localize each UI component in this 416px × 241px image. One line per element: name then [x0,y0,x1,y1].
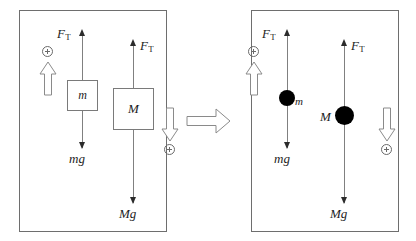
tension-symbol: F [57,26,65,41]
large-block-weight-arrowhead [130,197,136,204]
positive-up-block-arrow-icon [245,61,263,96]
small-point-mass-label: m [295,96,303,107]
small-block-tension-arrowhead [79,29,85,36]
small-point-mass-body [279,90,295,106]
tension-symbol: F [140,38,148,53]
small-block-weight-arrowhead [79,142,85,149]
large-point-weight-label: Mg [330,207,347,220]
small-block-tension-label: FT [57,27,71,42]
figure-canvas: FT m mg FT M Mg [0,0,416,241]
small-point-tension-arrowhead [284,29,290,36]
tension-subscript: T [359,44,364,54]
large-point-tension-arrowhead [341,39,347,46]
large-point-mass-label: M [320,110,331,123]
tension-symbol: F [262,26,270,41]
positive-up-sign-icon [248,46,259,57]
positive-up-block-arrow-icon [39,61,57,96]
positive-down-block-arrow-icon [378,107,396,142]
large-block-tension-label: FT [140,39,154,54]
tension-subscript: T [148,44,153,54]
large-block-body: M [113,88,154,130]
implies-arrow-icon [186,107,231,135]
tension-symbol: F [351,38,359,53]
before-panel: FT m mg FT M Mg [19,10,167,232]
small-point-tension-label: FT [262,27,276,42]
tension-subscript: T [65,32,70,42]
positive-down-block-arrow-icon [161,107,179,142]
large-point-mass-body [335,106,354,125]
small-block-weight-label: mg [69,152,85,165]
small-point-weight-arrowhead [284,142,290,149]
tension-subscript: T [270,32,275,42]
large-point-tension-label: FT [351,39,365,54]
positive-down-sign-icon [164,144,175,155]
large-block-tension-arrowhead [130,39,136,46]
after-panel: FT m mg FT M Mg [251,10,399,232]
large-point-weight-arrowhead [341,197,347,204]
large-block-weight-label: Mg [119,207,136,220]
large-block-mass-label: M [128,101,139,117]
positive-up-sign-icon [42,46,53,57]
positive-down-sign-icon [381,144,392,155]
small-block-mass-label: m [78,88,87,103]
small-block-body: m [67,80,98,111]
small-point-weight-label: mg [274,152,290,165]
